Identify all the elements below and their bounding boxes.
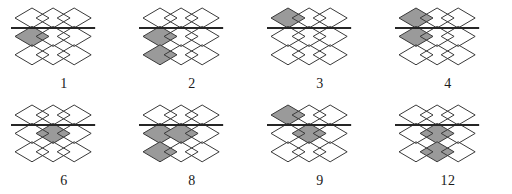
diamond-cell bbox=[15, 45, 49, 65]
diamond-cell bbox=[271, 45, 305, 65]
diamond-cell-shaded bbox=[399, 26, 433, 46]
lattice-wrap bbox=[271, 105, 369, 167]
figure-sheet: 1234 68912 bbox=[0, 0, 512, 194]
figure-9: 9 bbox=[256, 97, 384, 194]
figure-label: 1 bbox=[60, 77, 68, 91]
diamond-cell-shaded bbox=[15, 26, 49, 46]
diamond-cell bbox=[57, 142, 91, 162]
diamond-cell bbox=[15, 105, 49, 125]
figure-label: 9 bbox=[316, 174, 324, 188]
figure-label: 2 bbox=[188, 77, 196, 91]
diamond-cell bbox=[36, 45, 70, 65]
diamond-cell bbox=[441, 45, 475, 65]
diamond-cell-shaded bbox=[420, 142, 454, 162]
lattice-wrap bbox=[399, 8, 497, 70]
figure-1: 1 bbox=[0, 0, 128, 97]
figure-label: 3 bbox=[316, 77, 324, 91]
diamond-cell bbox=[15, 142, 49, 162]
diamond-cell bbox=[292, 142, 326, 162]
lattice-wrap bbox=[143, 8, 241, 70]
diamond-cell bbox=[15, 8, 49, 28]
diamond-lattice bbox=[271, 8, 369, 70]
figure-label: 8 bbox=[188, 174, 196, 188]
diamond-cell bbox=[143, 8, 177, 28]
diamond-cell bbox=[441, 8, 475, 28]
figure-8: 8 bbox=[128, 97, 256, 194]
diamond-cell bbox=[292, 45, 326, 65]
diamond-cell bbox=[313, 26, 347, 46]
figure-4: 4 bbox=[384, 0, 512, 97]
diamond-cell bbox=[271, 26, 305, 46]
diamond-cell bbox=[185, 26, 219, 46]
figure-6: 6 bbox=[0, 97, 128, 194]
diamond-lattice bbox=[271, 105, 369, 167]
diamond-cell bbox=[57, 105, 91, 125]
diamond-cell-shaded bbox=[143, 26, 177, 46]
diamond-cell bbox=[185, 45, 219, 65]
diamond-cell bbox=[185, 142, 219, 162]
diamond-lattice bbox=[143, 8, 241, 70]
figure-label: 12 bbox=[441, 174, 456, 188]
diamond-cell bbox=[36, 105, 70, 125]
figure-row-bottom: 68912 bbox=[0, 97, 512, 194]
diamond-cell bbox=[313, 8, 347, 28]
lattice-wrap bbox=[399, 105, 497, 167]
figure-label: 6 bbox=[60, 174, 68, 188]
lattice-wrap bbox=[15, 8, 113, 70]
figure-row-top: 1234 bbox=[0, 0, 512, 97]
diamond-cell bbox=[313, 45, 347, 65]
diamond-cell bbox=[420, 105, 454, 125]
diamond-cell bbox=[292, 26, 326, 46]
lattice-wrap bbox=[143, 105, 241, 167]
diamond-cell bbox=[420, 45, 454, 65]
diamond-cell bbox=[57, 45, 91, 65]
diamond-lattice bbox=[399, 8, 497, 70]
diamond-cell bbox=[399, 45, 433, 65]
diamond-cell bbox=[399, 105, 433, 125]
diamond-cell-shaded bbox=[399, 8, 433, 28]
diamond-cell-shaded bbox=[292, 123, 326, 143]
diamond-cell-shaded bbox=[271, 105, 305, 125]
diamond-cell-shaded bbox=[143, 45, 177, 65]
diamond-cell-shaded bbox=[420, 123, 454, 143]
diamond-cell bbox=[57, 26, 91, 46]
diamond-cell bbox=[164, 8, 198, 28]
diamond-lattice bbox=[15, 105, 113, 167]
lattice-wrap bbox=[271, 8, 369, 70]
figure-3: 3 bbox=[256, 0, 384, 97]
diamond-cell bbox=[164, 105, 198, 125]
diamond-cell bbox=[57, 8, 91, 28]
diamond-cell bbox=[36, 8, 70, 28]
diamond-cell bbox=[441, 26, 475, 46]
diamond-cell bbox=[185, 105, 219, 125]
diamond-lattice bbox=[143, 105, 241, 167]
diamond-cell-shaded bbox=[143, 142, 177, 162]
diamond-cell-shaded bbox=[271, 8, 305, 28]
diamond-cell bbox=[313, 142, 347, 162]
diamond-cell bbox=[143, 105, 177, 125]
diamond-lattice bbox=[399, 105, 497, 167]
figure-label: 4 bbox=[444, 77, 452, 91]
diamond-cell bbox=[36, 142, 70, 162]
lattice-wrap bbox=[15, 105, 113, 167]
diamond-cell-shaded bbox=[164, 123, 198, 143]
diamond-lattice bbox=[15, 8, 113, 70]
diamond-cell bbox=[185, 8, 219, 28]
figure-2: 2 bbox=[128, 0, 256, 97]
diamond-cell bbox=[313, 105, 347, 125]
diamond-cell bbox=[441, 105, 475, 125]
diamond-cell bbox=[271, 142, 305, 162]
diamond-cell-shaded bbox=[36, 123, 70, 143]
figure-12: 12 bbox=[384, 97, 512, 194]
